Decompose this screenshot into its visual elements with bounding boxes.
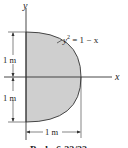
figure-canvas: y x y2 = 1 − x 1 m 1 m 1 m Prob. 6-??/?? xyxy=(0,0,128,148)
x-axis-label: x xyxy=(114,71,120,82)
lower-height-label: 1 m xyxy=(3,93,16,103)
arrow-right-icon xyxy=(77,131,81,134)
arrow-down-icon xyxy=(12,73,15,77)
y-axis-label: y xyxy=(22,0,28,11)
upper-height-label: 1 m xyxy=(3,55,16,65)
width-label: 1 m xyxy=(45,127,58,137)
arrow-up-icon xyxy=(12,77,15,81)
arrow-down-icon xyxy=(12,118,15,122)
figure-caption: Prob. 6-??/?? xyxy=(30,144,87,148)
arrow-up-icon xyxy=(12,32,15,36)
arrow-left-icon xyxy=(26,131,30,134)
